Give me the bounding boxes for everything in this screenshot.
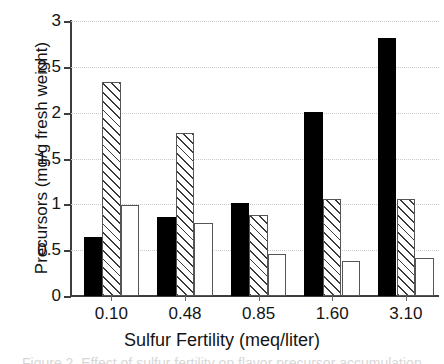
y-tick-label: 2 [52,103,61,123]
bar-0.85-series-2 [249,215,268,296]
x-tick-label-3.10: 3.10 [389,304,422,324]
x-axis-title: Sulfur Fertility (meq/liter) [0,330,444,351]
y-tick-mark [64,67,71,69]
y-tick-mark [64,113,71,115]
x-tick-label-1.60: 1.60 [316,304,349,324]
bar-1.60-series-3 [342,261,361,296]
clipped-caption: Figure 2. Effect of sulfur fertility on … [22,356,422,364]
bar-0.48-series-2 [176,133,195,296]
y-tick-label: 1 [52,194,61,214]
y-tick-mark [64,250,71,252]
bar-chart-figure: Precursors (mg/g fresh weight) 00.511.52… [0,0,444,364]
bar-1.60-series-1 [304,112,323,296]
bar-0.48-series-1 [157,217,176,296]
bar-0.10-series-1 [84,237,103,296]
bar-3.10-series-2 [397,199,416,296]
bar-0.10-series-3 [121,205,140,296]
bar-3.10-series-1 [378,38,397,296]
y-tick-label: 0 [52,286,61,306]
y-tick-label: 3 [52,11,61,31]
x-tick-label-0.85: 0.85 [242,304,275,324]
y-tick-mark [64,296,71,298]
bar-1.60-series-2 [323,199,342,296]
x-tick-mark [259,296,260,301]
plot-area: 00.511.522.53 [71,21,439,296]
bar-3.10-series-3 [415,258,434,297]
x-tick-label-0.10: 0.10 [95,304,128,324]
bar-0.85-series-1 [231,203,250,296]
x-tick-mark [406,296,407,301]
y-tick-mark [64,21,71,23]
y-tick-label: 1.5 [37,149,61,169]
x-tick-mark [111,296,112,301]
x-tick-mark [332,296,333,301]
y-tick-label: 2.5 [37,57,61,77]
y-tick-label: 0.5 [37,240,61,260]
bar-0.85-series-3 [268,254,287,296]
y-tick-mark [64,204,71,206]
bar-0.48-series-3 [194,223,213,296]
x-tick-label-0.48: 0.48 [168,304,201,324]
gridline [71,21,439,22]
bar-0.10-series-2 [102,82,121,296]
y-tick-mark [64,159,71,161]
x-tick-mark [185,296,186,301]
